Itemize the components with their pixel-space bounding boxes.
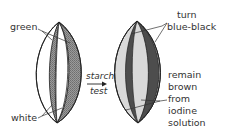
label-brown: brown: [168, 81, 197, 92]
label-test: test: [90, 86, 108, 96]
label-iodine: iodine: [168, 105, 197, 116]
label-blue-black: blue-black: [167, 21, 217, 32]
label-from: from: [168, 93, 190, 104]
leaf-after-test: [115, 21, 161, 123]
label-turn: turn: [177, 9, 197, 20]
leaf-before-test: [36, 22, 81, 123]
starch-test-diagram: green white starch test turn blue-black …: [0, 0, 229, 137]
label-green: green: [10, 21, 37, 32]
label-solution: solution: [168, 117, 206, 128]
process-arrow: starch test: [86, 71, 114, 96]
label-white: white: [11, 112, 37, 123]
label-starch: starch: [86, 71, 114, 81]
label-remain: remain: [168, 69, 201, 80]
